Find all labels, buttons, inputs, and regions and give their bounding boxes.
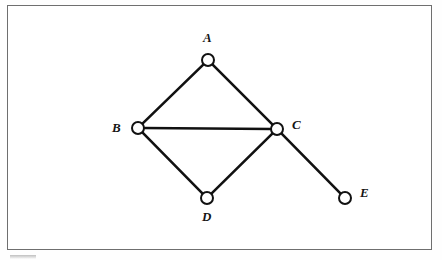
graph-node-b <box>132 122 144 134</box>
graph-node-a <box>202 54 214 66</box>
caption-text-sliver <box>10 255 36 259</box>
node-label-a: A <box>203 31 212 44</box>
figure-root: ABCDE <box>0 0 442 260</box>
graph-edge-a-c <box>212 64 273 125</box>
node-label-d: D <box>202 210 211 223</box>
graph-node-c <box>271 123 283 135</box>
graph-edge-b-c <box>143 128 271 129</box>
graph-node-d <box>201 192 213 204</box>
node-label-e: E <box>360 186 369 199</box>
graph-edge-c-e <box>281 133 341 194</box>
graph-edge-a-b <box>142 64 204 124</box>
graph-edge-c-d <box>211 133 273 194</box>
graph-canvas <box>0 0 442 260</box>
node-label-b: B <box>112 121 121 134</box>
edge-layer <box>142 64 341 194</box>
graph-node-e <box>339 192 351 204</box>
graph-edge-b-d <box>142 132 203 194</box>
node-label-c: C <box>292 118 301 131</box>
